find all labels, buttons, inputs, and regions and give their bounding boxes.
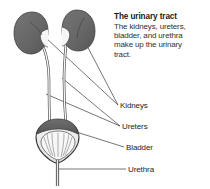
left-ureter-lumen: [43, 46, 50, 126]
ureters: [43, 44, 66, 126]
label-kidneys: Kidneys: [120, 101, 148, 110]
urinary-tract-figure: The urinary tract The kidneys, ureters, …: [0, 0, 210, 189]
label-bladder: Bladder: [126, 143, 153, 152]
bladder: [36, 119, 79, 163]
caption-body: The kidneys, ureters, bladder, and ureth…: [114, 22, 210, 59]
caption-body-line: tract.: [114, 50, 210, 59]
left-kidney: [14, 12, 48, 54]
right-kidney: [62, 10, 95, 51]
caption-body-line: bladder, and urethra: [114, 31, 210, 40]
leader-line-ureter-right: [62, 78, 120, 126]
leader-line-kidney-right: [84, 40, 118, 105]
caption-body-line: The kidneys, ureters,: [114, 22, 210, 31]
label-ureters: Ureters: [122, 122, 148, 131]
caption-body-line: make up the urinary: [114, 40, 210, 49]
caption-title: The urinary tract: [114, 12, 208, 21]
label-urethra: Urethra: [128, 165, 154, 174]
